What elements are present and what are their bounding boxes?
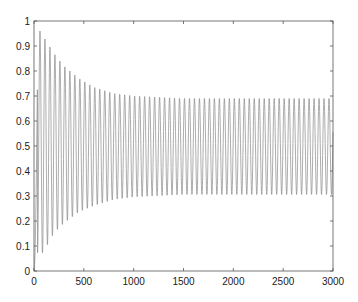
y-tick-label: 0.3 xyxy=(16,191,30,202)
x-tick-label: 1500 xyxy=(172,276,195,287)
y-tick-label: 0.2 xyxy=(16,216,30,227)
y-tick-label: 0.7 xyxy=(16,91,30,102)
y-tick-label: 1 xyxy=(24,16,30,27)
x-tick-label: 2500 xyxy=(272,276,295,287)
y-tick-label: 0.1 xyxy=(16,241,30,252)
y-tick-label: 0 xyxy=(24,266,30,277)
y-tick-label: 0.5 xyxy=(16,141,30,152)
line-chart: 050010001500200025003000 00.10.20.30.40.… xyxy=(0,0,358,302)
y-tick-label: 0.9 xyxy=(16,41,30,52)
x-tick-label: 500 xyxy=(75,276,92,287)
y-tick-label: 0.8 xyxy=(16,66,30,77)
y-tick-label: 0.4 xyxy=(16,166,30,177)
y-tick-label: 0.6 xyxy=(16,116,30,127)
x-tick-label: 3000 xyxy=(322,276,345,287)
x-tick-label: 1000 xyxy=(123,276,146,287)
x-tick-label: 2000 xyxy=(222,276,245,287)
x-tick-label: 0 xyxy=(31,276,37,287)
